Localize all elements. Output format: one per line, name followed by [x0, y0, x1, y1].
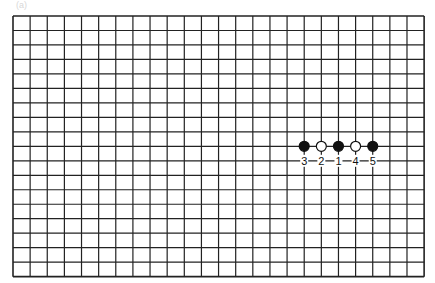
stone-label: 3	[301, 155, 307, 167]
stone-label: 2	[318, 155, 324, 167]
stone-label: 4	[353, 155, 359, 167]
stone-label: 5	[370, 155, 376, 167]
white-stone-icon	[316, 141, 326, 151]
white-stone-icon	[351, 141, 361, 151]
black-stone-icon	[299, 141, 309, 151]
stone-label: 1	[335, 155, 341, 167]
grid-board: 32145	[0, 0, 435, 283]
black-stone-icon	[368, 141, 378, 151]
black-stone-icon	[333, 141, 343, 151]
